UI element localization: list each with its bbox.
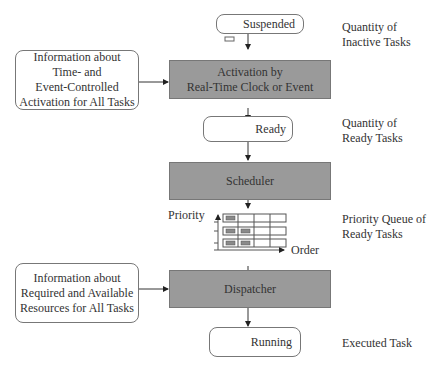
resource-info-box: Information aboutRequired and AvailableR… — [15, 263, 139, 323]
priority-axis-label: Priority — [168, 208, 205, 223]
task-state-diagram: Suspended Activation byReal-Time Clock o… — [0, 0, 438, 369]
scheduler-node: Scheduler — [169, 162, 331, 200]
ready-quantity-label: Quantity ofReady Tasks — [342, 116, 403, 146]
ready-node: Ready — [203, 116, 293, 142]
order-axis-label: Order — [291, 243, 319, 258]
suspended-node: Suspended — [216, 14, 304, 34]
queue-label: Priority Queue ofReady Tasks — [342, 212, 426, 242]
running-node: Running — [209, 327, 301, 357]
inactive-label: Quantity ofInactive Tasks — [342, 20, 411, 50]
activation-node: Activation byReal-Time Clock or Event — [169, 60, 331, 99]
executed-label: Executed Task — [342, 336, 412, 351]
dispatcher-node: Dispatcher — [169, 270, 331, 308]
time-info-box: Information aboutTime- andEvent-Controll… — [15, 50, 139, 110]
